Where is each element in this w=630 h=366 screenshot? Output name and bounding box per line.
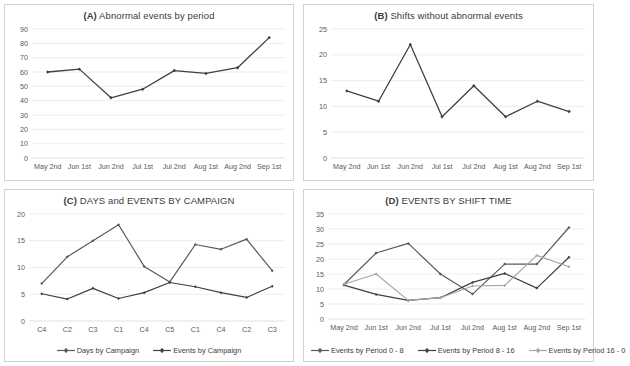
svg-text:0: 0 xyxy=(24,155,28,163)
svg-text:25: 25 xyxy=(316,241,324,249)
svg-text:Jun 1st: Jun 1st xyxy=(68,163,91,171)
svg-text:Jul 1st: Jul 1st xyxy=(132,163,153,171)
svg-text:30: 30 xyxy=(20,112,28,120)
legend-item: Events by Period 0 - 8 xyxy=(311,345,404,355)
svg-text:90: 90 xyxy=(20,26,28,34)
svg-text:10: 10 xyxy=(17,264,25,272)
svg-text:30: 30 xyxy=(316,226,324,234)
svg-text:Aug 2nd: Aug 2nd xyxy=(524,163,551,171)
svg-text:0: 0 xyxy=(21,318,25,326)
svg-text:20: 20 xyxy=(319,51,327,59)
chart-panel-a-frame: (A) Abnormal events by period 0102030405… xyxy=(4,4,294,181)
svg-text:May 2nd: May 2nd xyxy=(34,163,61,171)
chart-a-plot: 0102030405060708090May 2ndJun 1stJun 2nd… xyxy=(5,5,293,180)
svg-text:Jun 2nd: Jun 2nd xyxy=(98,163,123,171)
legend-marker-icon xyxy=(57,347,75,354)
svg-text:C3: C3 xyxy=(268,326,277,334)
legend-item: Days by Campaign xyxy=(57,345,139,355)
svg-text:Aug 2nd: Aug 2nd xyxy=(224,163,251,171)
legend-item: Events by Period 8 - 16 xyxy=(418,345,515,355)
svg-text:C4: C4 xyxy=(216,326,225,334)
chart-d-plot: 05101520253035May 2ndJun 1stJun 2ndJul 1… xyxy=(304,190,593,361)
legend-label: Events by Period 8 - 16 xyxy=(438,346,515,355)
svg-text:0: 0 xyxy=(323,155,327,163)
svg-text:Sep 1st: Sep 1st xyxy=(557,324,581,332)
legend-marker-icon xyxy=(418,347,436,354)
svg-text:20: 20 xyxy=(17,211,25,219)
svg-text:5: 5 xyxy=(323,129,327,137)
svg-text:Jul 2nd: Jul 2nd xyxy=(163,163,186,171)
legend-marker-icon xyxy=(529,347,547,354)
legend-label: Events by Period 16 - 0 xyxy=(549,346,626,355)
svg-text:Jul 2nd: Jul 2nd xyxy=(461,324,484,332)
svg-text:C4: C4 xyxy=(140,326,149,334)
chart-c-legend: Days by CampaignEvents by Campaign xyxy=(5,345,293,355)
chart-b-plot: 0510152025May 2ndJun 1stJun 2ndJul 1stJu… xyxy=(304,5,593,180)
chart-panel-c: (C) DAYS and EVENTS BY CAMPAIGN 05101520… xyxy=(0,185,299,366)
svg-text:20: 20 xyxy=(316,256,324,264)
svg-text:Aug 1st: Aug 1st xyxy=(194,163,218,171)
svg-text:15: 15 xyxy=(319,77,327,85)
legend-item: Events by Campaign xyxy=(153,345,241,355)
svg-text:70: 70 xyxy=(20,54,28,62)
svg-text:C1: C1 xyxy=(114,326,123,334)
svg-text:Jun 2nd: Jun 2nd xyxy=(396,324,421,332)
svg-text:60: 60 xyxy=(20,69,28,77)
svg-text:May 2nd: May 2nd xyxy=(333,163,360,171)
chart-panel-a: (A) Abnormal events by period 0102030405… xyxy=(0,0,299,185)
svg-text:10: 10 xyxy=(20,140,28,148)
svg-text:May 2nd: May 2nd xyxy=(330,324,357,332)
svg-text:50: 50 xyxy=(20,83,28,91)
svg-text:C4: C4 xyxy=(37,326,46,334)
legend-marker-icon xyxy=(311,347,329,354)
svg-text:15: 15 xyxy=(316,271,324,279)
chart-panel-d-frame: (D) EVENTS BY SHIFT TIME 05101520253035M… xyxy=(303,189,594,362)
svg-text:25: 25 xyxy=(319,26,327,34)
svg-text:C5: C5 xyxy=(165,326,174,334)
legend-marker-icon xyxy=(153,347,171,354)
svg-text:40: 40 xyxy=(20,97,28,105)
svg-text:5: 5 xyxy=(320,301,324,309)
chart-panel-b-frame: (B) Shifts without abnormal events 05101… xyxy=(303,4,594,181)
svg-text:Jul 1st: Jul 1st xyxy=(432,163,453,171)
svg-text:20: 20 xyxy=(20,126,28,134)
svg-text:5: 5 xyxy=(21,291,25,299)
legend-item: Events by Period 16 - 0 xyxy=(529,345,626,355)
svg-text:10: 10 xyxy=(316,286,324,294)
svg-text:Aug 1st: Aug 1st xyxy=(493,324,517,332)
svg-text:Jun 1st: Jun 1st xyxy=(367,163,390,171)
svg-text:35: 35 xyxy=(316,211,324,219)
svg-text:Jun 1st: Jun 1st xyxy=(365,324,388,332)
legend-label: Days by Campaign xyxy=(77,346,139,355)
svg-text:Sep 1st: Sep 1st xyxy=(257,163,281,171)
svg-text:C2: C2 xyxy=(63,326,72,334)
svg-text:Jul 1st: Jul 1st xyxy=(430,324,451,332)
legend-label: Events by Period 0 - 8 xyxy=(331,346,404,355)
svg-text:Jul 2nd: Jul 2nd xyxy=(462,163,485,171)
chart-d-legend: Events by Period 0 - 8Events by Period 8… xyxy=(304,345,593,355)
chart-c-plot: 05101520C4C2C3C1C4C5C1C4C2C3 xyxy=(5,190,293,361)
svg-text:C2: C2 xyxy=(242,326,251,334)
chart-panel-c-frame: (C) DAYS and EVENTS BY CAMPAIGN 05101520… xyxy=(4,189,294,362)
svg-text:Aug 2nd: Aug 2nd xyxy=(523,324,550,332)
svg-text:10: 10 xyxy=(319,103,327,111)
svg-text:80: 80 xyxy=(20,40,28,48)
svg-text:15: 15 xyxy=(17,237,25,245)
svg-text:Aug 1st: Aug 1st xyxy=(493,163,517,171)
svg-text:C3: C3 xyxy=(88,326,97,334)
svg-text:Sep 1st: Sep 1st xyxy=(557,163,581,171)
svg-text:C1: C1 xyxy=(191,326,200,334)
chart-panel-d: (D) EVENTS BY SHIFT TIME 05101520253035M… xyxy=(299,185,599,366)
svg-text:Jun 2nd: Jun 2nd xyxy=(398,163,423,171)
chart-panel-b: (B) Shifts without abnormal events 05101… xyxy=(299,0,599,185)
legend-label: Events by Campaign xyxy=(173,346,241,355)
svg-text:0: 0 xyxy=(320,316,324,324)
